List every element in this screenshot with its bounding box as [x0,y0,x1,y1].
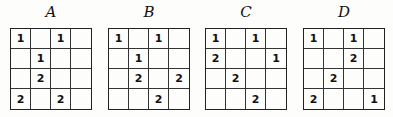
grid-cell: 2 [149,89,169,109]
grid-cell [206,69,226,89]
grid-cell: 1 [109,29,129,49]
grid-cell: 2 [304,89,324,109]
panel-title: A [10,3,92,21]
grid: 112221 [303,28,385,110]
grid-cell [31,89,51,109]
grid-cell: 2 [246,89,266,109]
grid-cell: 2 [344,49,364,69]
grid-cell: 2 [51,89,71,109]
grid-cell [51,69,71,89]
grid-cell: 2 [129,69,149,89]
grid-cell: 1 [364,89,384,109]
grid-cell [31,29,51,49]
grid-cell: 1 [344,29,364,49]
grid-cell [71,49,91,69]
grid-cell: 2 [226,69,246,89]
grid-cell: 1 [11,29,31,49]
grid-cell [71,29,91,49]
grid-cell [226,29,246,49]
grid-cell: 1 [149,29,169,49]
grid-cell [324,89,344,109]
grid-cell [364,29,384,49]
grid-cell [109,49,129,69]
grid-cell [364,49,384,69]
grid-cell: 1 [51,29,71,49]
grid-cell [324,49,344,69]
grid-cell: 2 [169,69,189,89]
grid-cell [304,49,324,69]
grid-cell [246,69,266,89]
grid-cell: 1 [206,29,226,49]
grid: 111222 [108,28,190,110]
grid-cell [129,29,149,49]
grid-cell: 2 [11,89,31,109]
grid-cell [71,69,91,89]
grid-cell [226,89,246,109]
grid-cell: 1 [31,49,51,69]
grid-cell [11,49,31,69]
panel-title: B [108,3,190,21]
grid-cell: 1 [266,49,286,69]
grid-cell [246,49,266,69]
grid-cell [266,29,286,49]
grid-cell: 2 [31,69,51,89]
panel-title: C [205,3,287,21]
grid-cell [149,69,169,89]
grid-cell [266,89,286,109]
grid-cell [304,69,324,89]
grid-cell: 1 [304,29,324,49]
grid-cell [169,29,189,49]
grid-cell [226,49,246,69]
grid: 112122 [205,28,287,110]
grid-cell [11,69,31,89]
grid-cell: 1 [246,29,266,49]
grid-cell [109,69,129,89]
panel-title: D [303,3,385,21]
grid-cell [206,89,226,109]
grid-cell [129,89,149,109]
grid-cell [109,89,129,109]
grid-cell: 1 [129,49,149,69]
grid-cell [71,89,91,109]
grid: 111222 [10,28,92,110]
grid-cell [344,89,364,109]
grid-cell [266,69,286,89]
grid-cell [169,49,189,69]
grid-cell [51,49,71,69]
grid-cell: 2 [206,49,226,69]
grid-cell: 2 [324,69,344,89]
grid-cell [324,29,344,49]
grid-cell [344,69,364,89]
grid-cell [364,69,384,89]
grid-cell [169,89,189,109]
grid-cell [149,49,169,69]
